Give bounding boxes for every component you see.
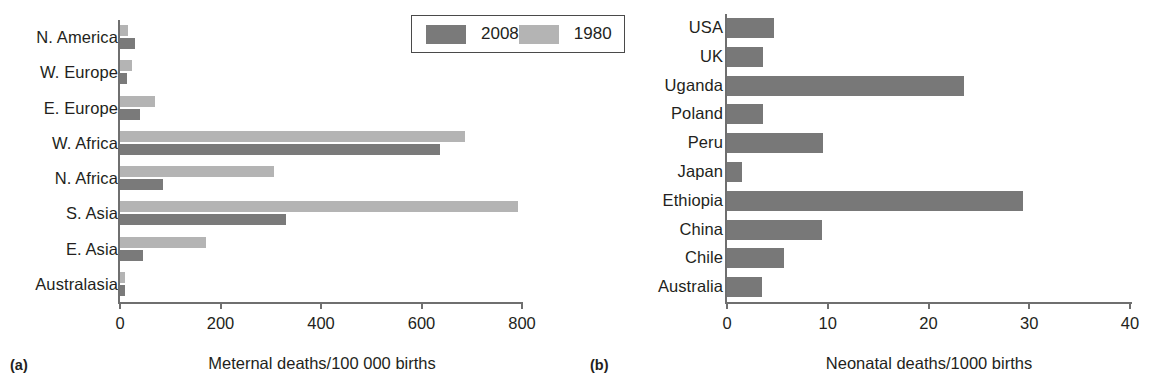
x-tick [1028,302,1030,309]
panel-b-plot-area: 010203040 [727,14,1147,304]
category-label-uk: UK [700,48,723,64]
x-tick-label: 800 [492,314,552,333]
category-label-w-africa: W. Africa [52,135,118,151]
x-tick [119,302,121,309]
panel-b-axis-title: Neonatal deaths/1000 births [727,354,1131,373]
bar-australasia-1980 [120,272,125,283]
x-tick [421,302,423,309]
bar-china-neonatal-deaths [727,220,822,240]
category-label-poland: Poland [671,105,723,121]
x-tick [726,302,728,309]
bar-e-asia-2008 [120,250,143,261]
bar-s-asia-1980 [120,201,518,212]
bar-poland-neonatal-deaths [727,104,763,124]
bar-w-europe-1980 [120,60,132,71]
x-tick [1129,302,1131,309]
legend-label-2008: 2008 [481,24,519,44]
category-label-e-asia: E. Asia [66,241,118,257]
x-tick [320,302,322,309]
panel-b-neonatal-deaths: USAUKUgandaPolandPeruJapanEthiopiaChinaC… [580,0,1160,386]
bar-japan-neonatal-deaths [727,162,742,182]
figure-root: N. AmericaW. EuropeE. EuropeW. AfricaN. … [0,0,1160,386]
bar-uk-neonatal-deaths [727,47,763,67]
bar-w-africa-1980 [120,131,465,142]
x-tick-label: 0 [90,314,150,333]
bar-w-europe-2008 [120,73,127,84]
bar-uganda-neonatal-deaths [727,76,964,96]
x-tick-label: 0 [697,314,757,333]
bar-australia-neonatal-deaths [727,277,762,297]
bar-e-europe-1980 [120,96,155,107]
x-tick [521,302,523,309]
bar-usa-neonatal-deaths [727,18,774,38]
x-tick-label: 600 [392,314,452,333]
x-tick [928,302,930,309]
x-tick-label: 10 [798,314,858,333]
x-tick [220,302,222,309]
category-label-australasia: Australasia [35,276,118,292]
bar-peru-neonatal-deaths [727,133,823,153]
category-label-australia: Australia [658,278,723,294]
category-label-w-europe: W. Europe [40,64,118,80]
category-label-peru: Peru [688,134,723,150]
x-tick-label: 20 [899,314,959,333]
x-tick-label: 40 [1100,314,1160,333]
category-label-e-europe: E. Europe [44,100,118,116]
legend-swatch-1980 [519,25,559,44]
category-label-n-africa: N. Africa [55,170,118,186]
category-label-japan: Japan [678,163,723,179]
bar-s-asia-2008 [120,214,286,225]
bar-australasia-2008 [120,285,125,296]
bar-n-america-1980 [120,25,128,36]
x-tick-label: 30 [999,314,1059,333]
category-label-china: China [679,221,723,237]
category-label-chile: Chile [685,249,723,265]
panel-b-category-labels: USAUKUgandaPolandPeruJapanEthiopiaChinaC… [580,0,723,300]
bar-w-africa-2008 [120,144,440,155]
category-label-uganda: Uganda [665,77,723,93]
category-label-s-asia: S. Asia [66,205,118,221]
bar-e-europe-2008 [120,109,140,120]
x-tick-label: 400 [291,314,351,333]
legend-swatch-2008 [426,25,466,44]
bar-e-asia-1980 [120,237,206,248]
panel-a-plot-area: 0200400600800 [120,20,530,304]
panel-b-tag: (b) [590,357,609,373]
panel-a-tag: (a) [10,357,28,373]
bar-ethiopia-neonatal-deaths [727,191,1023,211]
bar-n-africa-1980 [120,166,274,177]
bar-chile-neonatal-deaths [727,248,784,268]
category-label-n-america: N. America [36,29,118,45]
legend-item-2008[interactable]: 2008 [426,24,519,44]
x-tick [827,302,829,309]
category-label-usa: USA [689,19,723,35]
bar-n-america-2008 [120,38,135,49]
category-label-ethiopia: Ethiopia [663,192,723,208]
panel-a-maternal-deaths: N. AmericaW. EuropeE. EuropeW. AfricaN. … [0,0,580,386]
panel-a-axis-title: Meternal deaths/100 000 births [120,354,524,373]
bar-n-africa-2008 [120,179,163,190]
x-tick-label: 200 [191,314,251,333]
panel-a-category-labels: N. AmericaW. EuropeE. EuropeW. AfricaN. … [0,0,118,300]
